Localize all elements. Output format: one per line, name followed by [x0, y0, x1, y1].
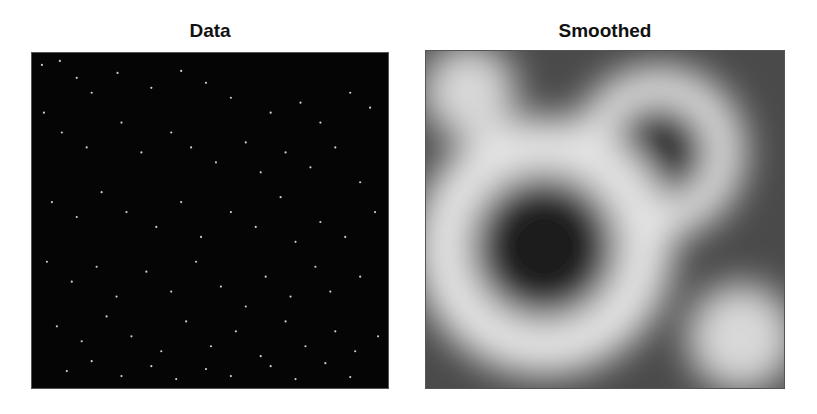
data-point: [116, 72, 118, 74]
data-point: [220, 286, 222, 288]
data-point: [349, 376, 351, 378]
data-point: [66, 370, 68, 372]
data-point: [205, 368, 207, 370]
data-point: [195, 261, 197, 263]
data-point: [359, 276, 361, 278]
data-point: [344, 236, 346, 238]
data-point: [235, 330, 237, 332]
smoothed-panel-title: Smoothed: [425, 20, 785, 42]
data-point: [170, 131, 172, 133]
data-point: [140, 151, 142, 153]
data-point: [319, 121, 321, 123]
data-point: [210, 345, 212, 347]
data-point: [377, 335, 379, 337]
data-point: [284, 151, 286, 153]
data-point: [145, 271, 147, 273]
data-point: [299, 102, 301, 104]
data-point: [130, 335, 132, 337]
data-point: [245, 141, 247, 143]
data-point: [260, 355, 262, 357]
data-point: [150, 365, 152, 367]
data-point: [319, 221, 321, 223]
data-point: [215, 161, 217, 163]
data-point: [125, 211, 127, 213]
data-point: [160, 350, 162, 352]
data-panel-title: Data: [31, 20, 389, 42]
data-point: [349, 92, 351, 94]
data-point: [59, 60, 61, 62]
data-point: [76, 77, 78, 79]
data-point: [255, 226, 257, 228]
data-point: [91, 360, 93, 362]
data-point: [101, 191, 103, 193]
data-point: [230, 375, 232, 377]
data-point: [334, 330, 336, 332]
data-point: [91, 92, 93, 94]
data-point: [284, 320, 286, 322]
data-point: [180, 70, 182, 72]
data-point: [81, 340, 83, 342]
data-points-plot: [32, 53, 388, 388]
data-point: [115, 295, 117, 297]
data-point: [46, 261, 48, 263]
data-point: [354, 350, 356, 352]
data-point: [200, 236, 202, 238]
data-point: [374, 211, 376, 213]
data-point: [150, 87, 152, 89]
data-point: [294, 378, 296, 380]
data-point: [230, 211, 232, 213]
data-point: [294, 241, 296, 243]
data-point: [120, 375, 122, 377]
data-point: [155, 226, 157, 228]
data-point: [205, 82, 207, 84]
data-point: [245, 305, 247, 307]
smoothed-density-plot: [426, 51, 784, 388]
data-point: [359, 181, 361, 183]
data-point: [56, 325, 58, 327]
data-point: [289, 295, 291, 297]
data-point: [260, 171, 262, 173]
data-point: [76, 216, 78, 218]
data-point: [324, 362, 326, 364]
data-point: [51, 201, 53, 203]
data-point: [71, 281, 73, 283]
data-image-panel: [31, 52, 389, 389]
data-point: [170, 290, 172, 292]
data-point: [175, 378, 177, 380]
data-point: [280, 196, 282, 198]
data-point: [41, 64, 43, 66]
data-point: [329, 290, 331, 292]
smoothed-image-panel: [425, 50, 785, 389]
data-point: [190, 146, 192, 148]
data-point: [96, 266, 98, 268]
data-point: [309, 166, 311, 168]
data-point: [105, 315, 107, 317]
density-feature: [687, 284, 784, 388]
data-point: [314, 266, 316, 268]
data-point: [270, 112, 272, 114]
data-point: [265, 276, 267, 278]
data-point: [120, 121, 122, 123]
data-point: [86, 146, 88, 148]
data-point: [43, 112, 45, 114]
data-point: [369, 107, 371, 109]
data-point: [334, 146, 336, 148]
data-point: [270, 365, 272, 367]
data-point: [180, 201, 182, 203]
data-point: [185, 320, 187, 322]
data-point: [304, 345, 306, 347]
density-feature: [443, 145, 645, 347]
data-point: [230, 97, 232, 99]
data-point: [61, 131, 63, 133]
